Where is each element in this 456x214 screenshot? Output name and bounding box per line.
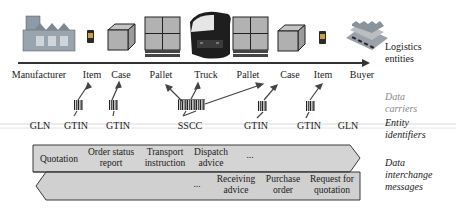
message-line: advice [190, 158, 232, 169]
message-line: report [82, 158, 140, 169]
message-request-for-quotation: Request for quotation [306, 174, 358, 196]
identifier-gtin: GTIN [102, 120, 134, 131]
row-label-logistics-entities: Logistics entities [385, 41, 422, 65]
factory-icon [23, 16, 75, 51]
message-line: instruction [142, 158, 188, 169]
row-label-data-carriers: Data carriers [385, 91, 417, 115]
message-line: ... [190, 179, 204, 190]
identifier-gln: GLN [334, 120, 362, 131]
message-transport-instruction: Transport instruction [142, 147, 188, 169]
item-icon [87, 30, 94, 43]
row-label-line: entities [385, 53, 422, 65]
message-line: quotation [306, 185, 358, 196]
timeline-arrow [18, 59, 370, 67]
message-line: Quotation [36, 154, 82, 165]
message-line: Order status [82, 147, 140, 158]
identifier-gtin: GTIN [293, 120, 325, 131]
row-label-line: identifiers [385, 129, 426, 141]
pallet-icon [233, 17, 268, 57]
barcode-icon [109, 100, 118, 110]
message-line: Dispatch [190, 147, 232, 158]
entity-label-manufacturer: Manufacturer [2, 69, 76, 80]
row-label-line: Data [385, 91, 417, 103]
barcode-icon [74, 100, 83, 110]
row-label-line: messages [385, 181, 432, 193]
identifier-gtin: GTIN [240, 120, 272, 131]
entity-label-item: Item [80, 69, 104, 80]
row-label-entity-identifiers: Entity identifiers [385, 117, 426, 141]
row-label-line: interchange [385, 169, 432, 181]
message-ellipsis: ... [243, 150, 257, 161]
message-dispatch-advice: Dispatch advice [190, 147, 232, 169]
item-icon [319, 31, 326, 44]
identifier-sscc: SSCC [172, 120, 208, 131]
entity-label-case: Case [277, 69, 303, 80]
row-label-line: carriers [385, 103, 417, 115]
message-ellipsis: ... [190, 179, 204, 190]
message-line: Request for [306, 174, 358, 185]
message-line: Transport [142, 147, 188, 158]
identifier-gtin: GTIN [60, 120, 92, 131]
entity-label-item: Item [311, 69, 335, 80]
barcode-icon [258, 101, 267, 111]
case-box-icon [108, 24, 135, 50]
row-label-line: Entity [385, 117, 426, 129]
barcode-icon [306, 101, 315, 111]
message-line: Purchase [262, 174, 304, 185]
entity-label-case: Case [108, 69, 134, 80]
message-line: ... [243, 150, 257, 161]
case-box-icon [278, 25, 305, 51]
pallet-icon [145, 17, 180, 57]
truck-icon [190, 12, 231, 59]
warehouse-icon [346, 21, 388, 50]
entity-label-pallet: Pallet [232, 69, 264, 80]
message-quotation: Quotation [36, 154, 82, 165]
message-line: advice [214, 185, 258, 196]
entity-label-truck: Truck [190, 69, 222, 80]
row-label-line: Logistics [385, 41, 422, 53]
row-label-data-interchange-messages: Data interchange messages [385, 157, 432, 193]
row-label-line: Data [385, 157, 432, 169]
message-line: order [262, 185, 304, 196]
message-receiving-advice: Receiving advice [214, 174, 258, 196]
entity-label-pallet: Pallet [145, 69, 177, 80]
entity-label-buyer: Buyer [347, 69, 377, 80]
message-order-status-report: Order status report [82, 147, 140, 169]
message-purchase-order: Purchase order [262, 174, 304, 196]
identifier-gln: GLN [26, 120, 54, 131]
message-line: Receiving [214, 174, 258, 185]
